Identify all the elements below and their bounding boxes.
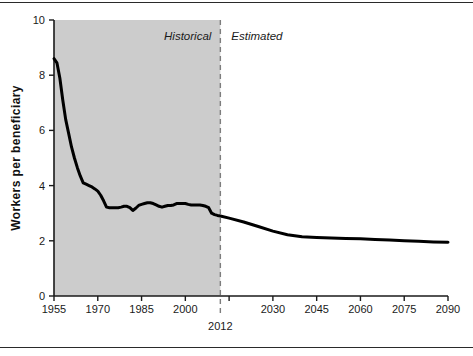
- y-tick-label: 6: [39, 124, 45, 136]
- x-tick-label: 1970: [86, 303, 110, 315]
- historical-band-label: Historical: [164, 30, 212, 42]
- y-axis-title: Workers per beneficiary: [9, 85, 23, 231]
- y-tick-label: 10: [33, 14, 45, 26]
- y-tick-label: 2: [39, 235, 45, 247]
- divider-year-label: 2012: [208, 320, 232, 332]
- x-tick-label: 2030: [261, 303, 285, 315]
- estimated-band-label: Estimated: [231, 30, 283, 42]
- workers-per-beneficiary-line-chart: 0246810 19551970198520002030204520602075…: [0, 0, 473, 356]
- y-tick-label: 4: [39, 180, 45, 192]
- chart-figure: 0246810 19551970198520002030204520602075…: [0, 0, 473, 356]
- y-axis-ticks: 0246810: [33, 14, 54, 302]
- x-tick-label: 1955: [42, 303, 66, 315]
- y-tick-label: 8: [39, 69, 45, 81]
- x-tick-label: 2000: [173, 303, 197, 315]
- x-tick-label: 2075: [392, 303, 416, 315]
- historical-shaded-band: [54, 20, 220, 296]
- x-tick-label: 1985: [129, 303, 153, 315]
- y-tick-label: 0: [39, 290, 45, 302]
- x-tick-label: 2090: [436, 303, 460, 315]
- x-tick-label: 2060: [348, 303, 372, 315]
- x-tick-label: 2045: [304, 303, 328, 315]
- x-axis-ticks: 195519701985200020302045206020752090: [42, 296, 460, 315]
